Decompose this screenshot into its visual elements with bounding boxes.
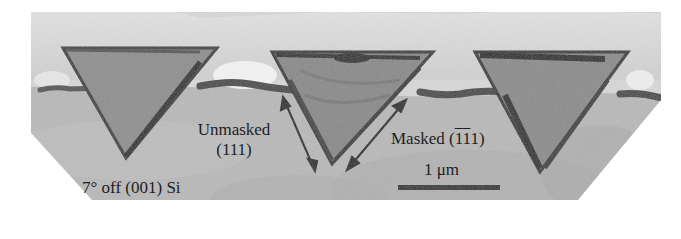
unmasked-label-line2: (111) <box>184 141 284 158</box>
micrograph-figure: Unmasked (111) Masked (111) 7° off (001)… <box>0 0 681 239</box>
masked-label-bar1: 1 <box>455 129 463 148</box>
masked-label-suffix: 1) <box>470 129 484 148</box>
sample-region <box>0 0 681 239</box>
scale-bar-label: 1 μm <box>424 161 459 178</box>
micrograph-image <box>0 0 681 239</box>
scale-bar <box>398 185 500 190</box>
masked-label-prefix: Masked ( <box>391 129 455 148</box>
substrate-label: 7° off (001) Si <box>82 179 181 196</box>
unmasked-label-line1: Unmasked <box>184 121 284 138</box>
unmasked-label: Unmasked (111) <box>184 121 284 158</box>
masked-label: Masked (111) <box>391 130 485 147</box>
